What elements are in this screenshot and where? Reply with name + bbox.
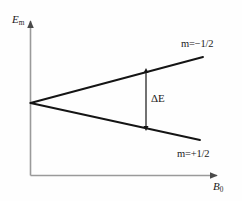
splitting-label: ΔE — [151, 93, 165, 104]
y-axis-label-subscript: m — [19, 19, 25, 27]
y-axis-label: Em — [12, 14, 24, 27]
series-label-m-minus-half: m=−1/2 — [181, 39, 213, 50]
zeeman-splitting-figure: Em B0 m=−1/2 m=+1/2 ΔE — [0, 0, 242, 201]
y-axis-label-symbol: E — [12, 13, 19, 25]
series-line-m-minus-half — [31, 57, 204, 103]
x-axis-label-subscript: 0 — [220, 186, 224, 194]
series-line-m-plus-half — [31, 103, 201, 140]
series-label-m-plus-half: m=+1/2 — [177, 149, 209, 160]
x-axis-label-symbol: B — [213, 180, 220, 192]
figure-canvas — [0, 0, 242, 201]
x-axis-label: B0 — [213, 181, 223, 194]
